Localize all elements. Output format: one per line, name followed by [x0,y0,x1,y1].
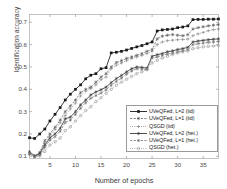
legend-item-label: UVeQFed, L=1 (iid) [148,115,194,122]
legend-item-label: QSGD (iid) [148,123,175,130]
svg-text:5: 5 [48,161,52,168]
legend-key-icon [129,115,148,122]
legend-item-label: UVeQFed, L=2 (iid) [148,108,194,115]
svg-text:0.4: 0.4 [18,85,27,92]
svg-text:30: 30 [174,161,181,168]
svg-text:0.1: 0.1 [18,152,27,159]
svg-text:25: 25 [149,161,156,168]
svg-text:0.3: 0.3 [18,108,27,115]
x-axis-label: Number of epochs [29,176,219,185]
legend-item[interactable]: UVeQFed, L=2 (het.) [129,130,215,137]
legend-key-icon [129,137,148,144]
legend-item-label: QSGD (het.) [148,144,178,151]
legend-item[interactable]: QSGD (het.) [129,144,215,151]
legend-key-icon [129,145,148,152]
legend-item-label: UVeQFed, L=1 (het.) [148,137,198,144]
legend-key-icon [129,108,148,115]
legend-item[interactable]: UVeQFed, L=1 (het.) [129,137,215,144]
y-axis-label: Identification accuracy [13,0,20,100]
figure: 0.10.20.30.40.50.60.7 5101520253035 Iden… [0,0,227,189]
svg-text:10: 10 [72,161,79,168]
legend-item[interactable]: UVeQFed, L=1 (iid) [129,115,215,122]
svg-text:0.5: 0.5 [18,63,27,70]
svg-text:0.2: 0.2 [18,130,27,137]
svg-text:0.7: 0.7 [18,18,27,25]
legend-item[interactable]: QSGD (iid) [129,123,215,130]
svg-text:20: 20 [123,161,130,168]
legend-item[interactable]: UVeQFed, L=2 (iid) [129,108,215,115]
svg-text:35: 35 [200,161,207,168]
svg-text:15: 15 [98,161,105,168]
legend: UVeQFed, L=2 (iid) UVeQFed, L=1 (iid) QS… [126,105,218,152]
svg-text:0.6: 0.6 [18,41,27,48]
chart-canvas: 0.10.20.30.40.50.60.7 5101520253035 [0,0,227,189]
legend-item-label: UVeQFed, L=2 (het.) [148,130,198,137]
legend-key-icon [129,130,148,137]
legend-key-icon [129,123,148,130]
